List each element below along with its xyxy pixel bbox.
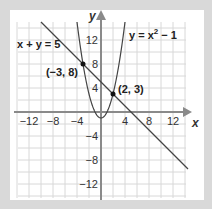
x-tick-label: −4 <box>71 115 84 127</box>
y-tick-label: −8 <box>85 154 98 166</box>
y-tick-label: 12 <box>86 34 98 46</box>
intersection-point-marker <box>111 92 116 97</box>
x-tick-label: −8 <box>47 115 60 127</box>
coordinate-plane: −12−8−448121284−4−8−12 (−3, 8)(2, 3) y x… <box>0 0 212 209</box>
x-tick-label: 12 <box>167 115 179 127</box>
y-tick-label: 4 <box>92 82 98 94</box>
intersection-point-marker <box>81 62 86 67</box>
intersection-point-label: (2, 3) <box>118 83 144 95</box>
y-axis-arrow-icon <box>96 10 106 20</box>
x-tick-label: 4 <box>122 115 128 127</box>
x-tick-label: −12 <box>20 115 39 127</box>
line-equation-label: x + y = 5 <box>17 38 60 50</box>
x-tick-label: 8 <box>146 115 152 127</box>
parabola-equation-label: y = x2 − 1 <box>129 27 177 41</box>
x-axis-arrow-icon <box>183 107 192 117</box>
x-axis-label: x <box>191 116 200 130</box>
y-axis-label: y <box>88 9 97 23</box>
y-tick-label: 8 <box>92 58 98 70</box>
y-tick-label: −4 <box>85 130 98 142</box>
intersection-point-label: (−3, 8) <box>46 66 78 78</box>
y-tick-label: −12 <box>79 178 98 190</box>
